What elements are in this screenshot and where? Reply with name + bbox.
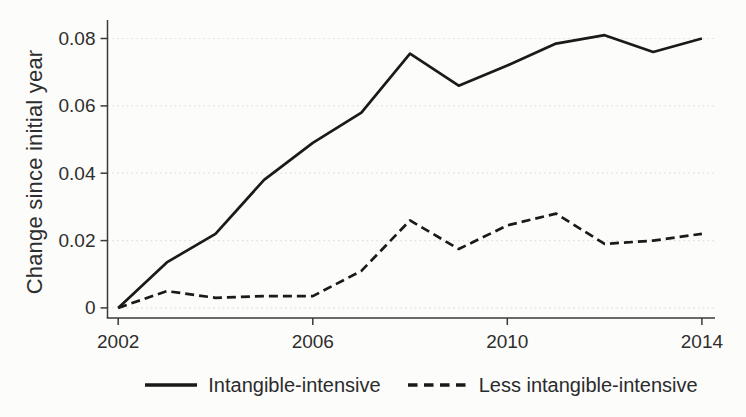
y-tick-label: 0.06: [59, 95, 96, 116]
legend-item-less-intangible-intensive: Less intangible-intensive: [407, 374, 698, 397]
legend-item-intangible-intensive: Intangible-intensive: [144, 374, 380, 397]
y-axis-title: Change since initial year: [22, 50, 48, 295]
series-line-dashed: [118, 214, 702, 308]
legend-label-less-intangible-intensive: Less intangible-intensive: [479, 374, 698, 397]
legend-label-intangible-intensive: Intangible-intensive: [208, 374, 380, 397]
line-chart-canvas: 00.020.040.060.082002200620102014: [0, 0, 746, 360]
figure: 00.020.040.060.082002200620102014 Change…: [0, 0, 746, 417]
y-tick-label: 0: [85, 297, 96, 318]
series-line-solid: [118, 35, 702, 308]
y-tick-label: 0.08: [59, 28, 96, 49]
x-tick-label: 2006: [292, 331, 334, 352]
legend-solid-line-swatch: [144, 381, 198, 389]
legend-dashed-line-swatch: [407, 381, 469, 389]
x-tick-label: 2014: [681, 331, 724, 352]
y-tick-label: 0.04: [59, 163, 96, 184]
legend: Intangible-intensive Less intangible-int…: [0, 366, 746, 404]
y-tick-label: 0.02: [59, 230, 96, 251]
x-tick-label: 2010: [486, 331, 528, 352]
x-tick-label: 2002: [97, 331, 139, 352]
